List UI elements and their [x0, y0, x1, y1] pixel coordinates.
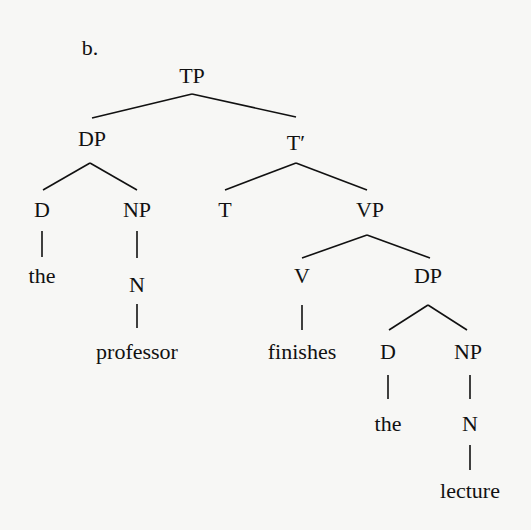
node-d-object: D: [380, 341, 396, 363]
leaf-the-subject: the: [29, 265, 56, 287]
node-tp: TP: [179, 65, 205, 87]
tree-branches: [0, 0, 531, 530]
leaf-finishes: finishes: [268, 341, 336, 363]
node-d-subject: D: [34, 199, 50, 221]
branch-line: [43, 163, 90, 190]
node-t: T: [218, 199, 231, 221]
branch-line: [192, 94, 296, 117]
node-dp-object: DP: [414, 265, 442, 287]
branch-line: [296, 163, 367, 190]
syntax-tree-diagram: b. TP DP T′ D NP T VP the N V DP profess…: [0, 0, 531, 530]
node-dp-subject: DP: [78, 128, 106, 150]
branch-line: [92, 94, 192, 118]
branch-line: [90, 163, 137, 190]
branch-line: [367, 235, 430, 258]
branch-line: [302, 235, 367, 258]
branch-line: [225, 163, 296, 190]
leaf-professor: professor: [96, 341, 178, 363]
node-n-subject: N: [129, 274, 145, 296]
leaf-lecture: lecture: [440, 480, 500, 502]
node-np-object: NP: [454, 341, 482, 363]
node-t-bar: T′: [287, 132, 305, 154]
figure-label: b.: [82, 37, 99, 59]
leaf-the-object: the: [375, 413, 402, 435]
branch-line: [428, 305, 467, 330]
node-np-subject: NP: [123, 199, 151, 221]
branch-line: [389, 305, 428, 330]
node-n-object: N: [462, 413, 478, 435]
node-v: V: [294, 265, 310, 287]
node-vp: VP: [356, 199, 384, 221]
